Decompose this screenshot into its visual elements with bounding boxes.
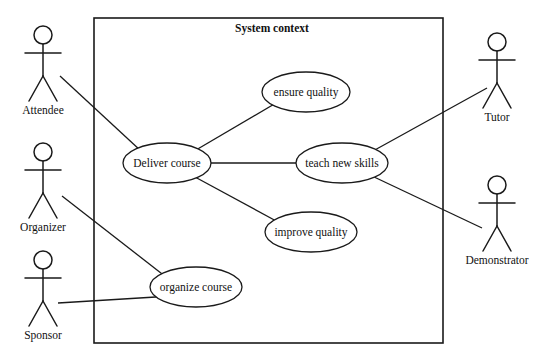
association-tutor-teach-new-skills bbox=[373, 88, 487, 151]
association-attendee-deliver-course bbox=[60, 76, 141, 151]
actor-head-icon bbox=[488, 33, 506, 51]
actor-label: Organizer bbox=[20, 221, 66, 234]
use-case-label: improve quality bbox=[274, 226, 347, 239]
use-case-label: teach new skills bbox=[305, 157, 379, 169]
actor-leg-left-icon bbox=[483, 226, 497, 251]
actor-demonstrator[interactable]: Demonstrator bbox=[465, 176, 528, 266]
actor-sponsor[interactable]: Sponsor bbox=[24, 251, 62, 342]
actor-leg-right-icon bbox=[43, 76, 57, 101]
actor-leg-left-icon bbox=[29, 76, 43, 101]
actor-leg-left-icon bbox=[29, 193, 43, 218]
actor-head-icon bbox=[34, 143, 52, 161]
actor-head-icon bbox=[34, 251, 52, 269]
actor-label: Demonstrator bbox=[465, 254, 528, 266]
association-sponsor-organize-course bbox=[58, 296, 172, 303]
use-case-ensure-quality[interactable]: ensure quality bbox=[262, 72, 350, 112]
actor-label: Tutor bbox=[484, 111, 509, 123]
association-demonstrator-teach-new-skills bbox=[372, 176, 482, 228]
use-case-label: Deliver course bbox=[133, 157, 200, 169]
actor-head-icon bbox=[488, 176, 506, 194]
association-organizer-organize-course bbox=[62, 196, 166, 277]
use-case-diagram-canvas: System context ensure quality Deliver co… bbox=[0, 0, 553, 359]
actor-leg-left-icon bbox=[29, 301, 43, 326]
association-deliver-course-improve-quality bbox=[195, 177, 278, 222]
actor-organizer[interactable]: Organizer bbox=[20, 143, 66, 234]
actor-leg-left-icon bbox=[483, 83, 497, 108]
uml-diagram-svg: System context ensure quality Deliver co… bbox=[0, 0, 553, 359]
use-case-label: ensure quality bbox=[274, 86, 339, 99]
actor-leg-right-icon bbox=[497, 226, 511, 251]
actor-leg-right-icon bbox=[43, 193, 57, 218]
use-case-deliver-course[interactable]: Deliver course bbox=[123, 143, 211, 183]
use-case-label: organize course bbox=[160, 281, 232, 294]
association-deliver-course-ensure-quality bbox=[196, 103, 276, 150]
association-lines-group bbox=[58, 76, 487, 303]
actor-attendee[interactable]: Attendee bbox=[22, 26, 64, 116]
actor-label: Attendee bbox=[22, 104, 64, 116]
use-cases-group: ensure quality Deliver course teach new … bbox=[123, 72, 388, 307]
actor-leg-right-icon bbox=[497, 83, 511, 108]
actors-group: Attendee Organizer Sponsor bbox=[20, 26, 529, 342]
use-case-improve-quality[interactable]: improve quality bbox=[265, 212, 357, 252]
actor-tutor[interactable]: Tutor bbox=[479, 33, 515, 123]
actor-head-icon bbox=[34, 26, 52, 44]
system-boundary-title: System context bbox=[235, 22, 309, 35]
actor-label: Sponsor bbox=[24, 329, 62, 342]
actor-leg-right-icon bbox=[43, 301, 57, 326]
use-case-organize-course[interactable]: organize course bbox=[150, 267, 242, 307]
use-case-teach-new-skills[interactable]: teach new skills bbox=[296, 143, 388, 183]
